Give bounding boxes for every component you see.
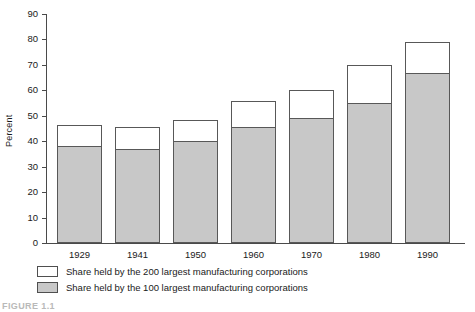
bar-segment-100-largest[interactable] [57,146,102,243]
bar-segment-100-largest[interactable] [115,149,160,243]
bar-group[interactable] [347,65,392,243]
y-axis-title: Percent [0,96,18,166]
x-axis-tick-label: 1941 [115,249,160,260]
bar-segment-200-largest[interactable] [115,127,160,149]
bar-segment-200-largest[interactable] [347,65,392,103]
bar-group[interactable] [405,42,450,243]
chart-legend: Share held by the 200 largest manufactur… [37,263,367,295]
legend-item-label: Share held by the 100 largest manufactur… [66,282,308,293]
x-axis-tick-label: 1970 [289,249,334,260]
y-axis-tick-label: 50 [27,110,38,121]
y-axis-tick-label: 90 [27,8,38,19]
y-axis-tick-label: 70 [27,59,38,70]
y-axis-tick-label: 80 [27,33,38,44]
gray-swatch [37,282,58,293]
bar-segment-100-largest[interactable] [231,127,276,243]
bar-group[interactable] [115,127,160,243]
legend-item[interactable]: Share held by the 100 largest manufactur… [37,279,367,295]
bar-segment-200-largest[interactable] [289,90,334,118]
bar-group[interactable] [173,120,218,243]
figure-container: Percent 0102030405060708090 192919411950… [0,0,475,312]
figure-caption: FIGURE 1.1 [2,301,55,312]
bar-series-group [46,10,465,244]
bar-segment-200-largest[interactable] [57,125,102,147]
bar-segment-200-largest[interactable] [405,42,450,73]
bar-segment-100-largest[interactable] [173,141,218,243]
x-axis-tick-label: 1980 [347,249,392,260]
y-axis-tick-label: 0 [33,237,38,248]
bar-group[interactable] [57,125,102,243]
bar-group[interactable] [289,90,334,243]
x-axis-tick-label: 1929 [57,249,102,260]
bar-segment-100-largest[interactable] [347,103,392,243]
bar-segment-200-largest[interactable] [173,120,218,142]
bar-segment-100-largest[interactable] [289,118,334,243]
y-axis-tick-label: 60 [27,84,38,95]
y-axis-tick-label: 40 [27,135,38,146]
plot-area: 0102030405060708090 19291941195019601970… [46,10,465,247]
bar-segment-200-largest[interactable] [231,101,276,128]
x-axis-tick-label: 1950 [173,249,218,260]
white-swatch [37,266,58,277]
x-axis-tick-label: 1960 [231,249,276,260]
legend-item[interactable]: Share held by the 200 largest manufactur… [37,263,367,279]
legend-item-label: Share held by the 200 largest manufactur… [66,266,308,277]
bar-segment-100-largest[interactable] [405,73,450,243]
bar-group[interactable] [231,101,276,243]
x-axis-tick-label: 1990 [405,249,450,260]
y-axis-tick-label: 20 [27,186,38,197]
y-axis-tick-label: 10 [27,212,38,223]
y-axis-tick-label: 30 [27,161,38,172]
